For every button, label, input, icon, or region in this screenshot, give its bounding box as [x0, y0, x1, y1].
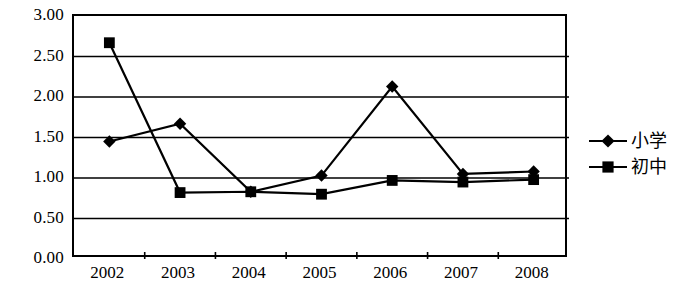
plot-area: [72, 14, 567, 257]
x-axis-ticks: [145, 252, 499, 259]
square-marker-icon: [588, 157, 628, 177]
data-point-marker: [175, 187, 186, 198]
diamond-marker-icon: [588, 131, 628, 151]
y-axis-tick-labels: 0.000.501.001.502.002.503.00: [0, 0, 64, 293]
y-axis-tick-label: 0.00: [0, 249, 64, 266]
x-axis-tick-label: 2007: [444, 262, 478, 284]
x-axis-tick-label: 2002: [90, 262, 124, 284]
y-axis-tick-label: 0.50: [0, 208, 64, 225]
x-axis-tick-label: 2005: [303, 262, 337, 284]
x-axis-tick-label: 2006: [373, 262, 407, 284]
legend-item-label: 小学: [628, 131, 667, 151]
x-axis-tick-label: 2008: [515, 262, 549, 284]
y-axis-tick-label: 1.00: [0, 168, 64, 185]
data-point-marker: [387, 175, 398, 186]
plot-svg: [74, 16, 569, 259]
x-axis-tick-label: 2004: [232, 262, 266, 284]
y-axis-tick-label: 3.00: [0, 6, 64, 23]
legend-item: 初中: [588, 154, 691, 180]
series-markers: [103, 37, 540, 199]
y-axis-tick-label: 1.50: [0, 127, 64, 144]
legend-item: 小学: [588, 128, 691, 154]
x-axis-tick-labels: 2002200320042005200620072008: [72, 262, 567, 292]
chart-legend: 小学 初中: [588, 128, 691, 180]
legend-item-label: 初中: [628, 157, 667, 177]
data-point-marker: [104, 37, 115, 48]
x-axis-tick-label: 2003: [161, 262, 195, 284]
data-point-marker: [316, 189, 327, 200]
y-axis-tick-label: 2.50: [0, 46, 64, 63]
data-point-marker: [528, 174, 539, 185]
data-point-marker: [245, 186, 256, 197]
line-chart: 0.000.501.001.502.002.503.00 20022003200…: [0, 0, 691, 293]
data-point-marker: [458, 177, 469, 188]
y-axis-tick-label: 2.00: [0, 87, 64, 104]
